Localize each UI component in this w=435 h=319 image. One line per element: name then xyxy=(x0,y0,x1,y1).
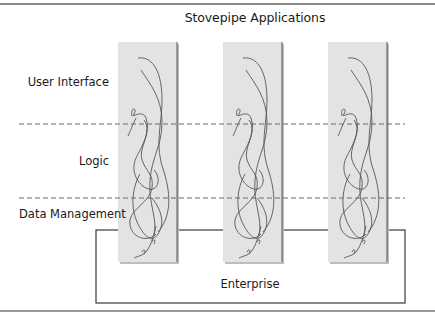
stovepipe-app-3 xyxy=(328,42,389,264)
stovepipe-app-1 xyxy=(118,42,179,264)
stovepipe-app-2 xyxy=(223,42,284,264)
stovepipe-diagram xyxy=(0,0,435,319)
layer-label-logic: Logic xyxy=(79,154,109,168)
layer-label-user-interface: User Interface xyxy=(28,75,109,89)
bottom-rule xyxy=(0,310,435,312)
layer-label-data-management: Data Management xyxy=(19,207,126,221)
enterprise-label: Enterprise xyxy=(200,277,300,291)
